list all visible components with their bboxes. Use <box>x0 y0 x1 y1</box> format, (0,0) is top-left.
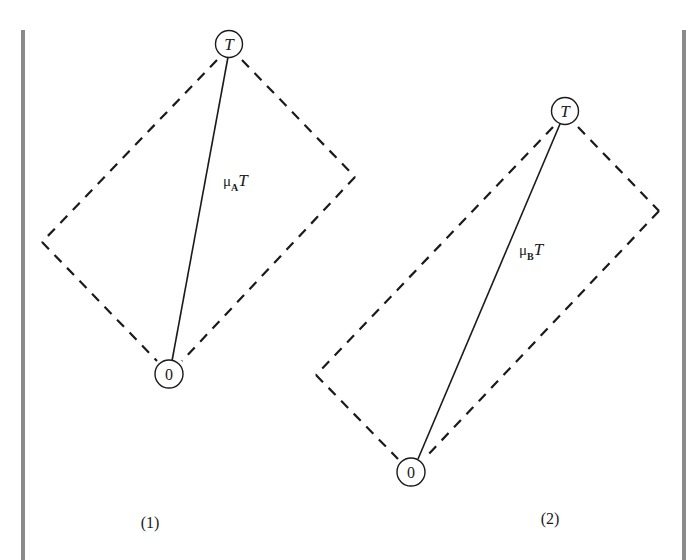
diagram-canvas: T 0 μAT (1) T <box>0 0 692 560</box>
panel-2: T 0 μBT (2) <box>316 98 659 529</box>
node-T-2: T <box>552 98 579 125</box>
svg-text:0: 0 <box>407 464 415 481</box>
svg-text:T: T <box>224 35 235 54</box>
node-T-1: T <box>216 31 243 58</box>
vector-line-2 <box>418 124 560 459</box>
panel-caption-1: (1) <box>141 514 160 532</box>
svg-text:0: 0 <box>165 366 173 383</box>
vector-line-1 <box>172 57 228 361</box>
panel-1: T 0 μAT (1) <box>42 31 355 533</box>
panel-caption-2: (2) <box>541 510 560 528</box>
node-0-1: 0 <box>155 360 183 388</box>
node-0-2: 0 <box>397 458 425 486</box>
svg-text:T: T <box>560 102 571 121</box>
vector-label-1: μAT <box>223 171 249 193</box>
dashed-rectangle-1 <box>42 60 355 361</box>
vector-label-2: μBT <box>519 240 545 262</box>
